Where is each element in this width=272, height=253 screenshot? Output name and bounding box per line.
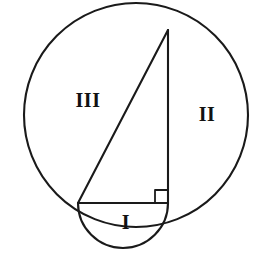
region-label-i: I — [122, 211, 130, 234]
triangle-hypotenuse — [78, 30, 168, 203]
geometry-figure: III II I — [0, 0, 272, 253]
right-angle-marker — [155, 190, 168, 203]
region-label-ii: II — [199, 103, 216, 126]
region-label-iii: III — [76, 89, 101, 112]
figure-canvas — [0, 0, 272, 253]
